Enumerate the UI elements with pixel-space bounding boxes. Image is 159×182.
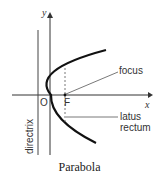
parabola-diagram [0, 0, 159, 182]
origin-label: O [40, 98, 48, 108]
x-axis-label: x [145, 100, 149, 110]
directrix-label: directrix [25, 119, 35, 154]
y-axis-arrow-icon [47, 12, 53, 18]
parabola-curve [46, 50, 106, 143]
x-axis-arrow-icon [148, 92, 153, 98]
caption: Parabola [0, 160, 159, 175]
y-axis-label: y [42, 8, 46, 18]
focus-callout-line [66, 72, 118, 94]
focus-point [64, 94, 67, 97]
latus-callout-line2: rectum [120, 123, 151, 133]
focus-callout-label: focus [119, 66, 143, 76]
latus-callout-line1: latus [120, 112, 141, 122]
focus-point-label: F [64, 98, 70, 108]
